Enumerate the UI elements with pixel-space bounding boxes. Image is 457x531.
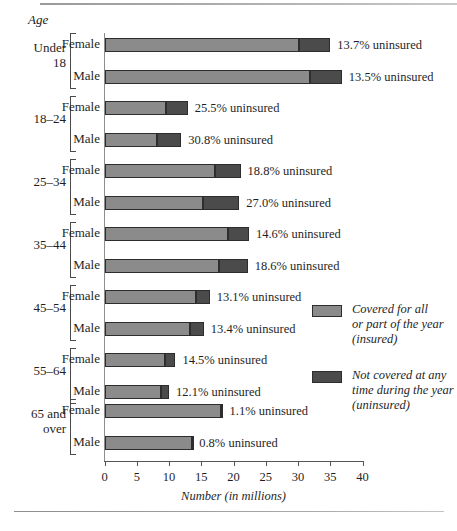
bar-segment-uninsured	[192, 436, 194, 450]
bar-row: 30.8% uninsured	[0, 133, 457, 147]
legend-swatch-insured	[312, 305, 342, 317]
bar-value-label: 0.8% uninsured	[199, 435, 277, 451]
legend-label-uninsured: Not covered at anytime during the year(u…	[352, 368, 457, 413]
legend-label-insured: Covered for allor part of the year(insur…	[352, 302, 457, 347]
bar-value-label: 25.5% uninsured	[195, 100, 280, 116]
top-rule	[40, 3, 457, 5]
insurance-coverage-chart: Age 0510152025303540 Number (in millions…	[0, 0, 457, 531]
bar-segment-uninsured	[161, 385, 169, 399]
bar-segment-insured	[105, 259, 219, 273]
bar-row: 14.6% uninsured	[0, 227, 457, 241]
bar-row: 0.8% uninsured	[0, 436, 457, 450]
x-axis-title: Number (in millions)	[104, 489, 363, 504]
bar-value-label: 13.1% uninsured	[217, 289, 302, 305]
bar-segment-uninsured	[299, 38, 330, 52]
bar-value-label: 30.8% uninsured	[188, 132, 273, 148]
bar-value-label: 14.5% uninsured	[182, 352, 267, 368]
bar-segment-insured	[105, 322, 191, 336]
bar-value-label: 13.5% uninsured	[349, 69, 434, 85]
bar-segment-insured	[105, 133, 158, 147]
bar-row: 14.5% uninsured	[0, 353, 457, 367]
x-tick-label-40: 40	[343, 470, 383, 485]
x-tick-0	[105, 461, 106, 466]
bar-segment-insured	[105, 101, 167, 115]
bar-value-label: 18.6% uninsured	[255, 258, 340, 274]
bar-value-label: 14.6% uninsured	[256, 226, 341, 242]
bottom-rule	[14, 511, 444, 512]
x-tick-35	[330, 461, 331, 466]
bar-segment-uninsured	[157, 133, 181, 147]
bar-segment-uninsured	[165, 353, 175, 367]
bar-row: 13.7% uninsured	[0, 38, 457, 52]
bar-value-label: 18.8% uninsured	[248, 163, 333, 179]
x-tick-10	[169, 461, 170, 466]
bar-value-label: 13.7% uninsured	[337, 37, 422, 53]
bar-segment-insured	[105, 385, 162, 399]
bar-segment-insured	[105, 38, 300, 52]
bar-segment-uninsured	[215, 164, 241, 178]
bar-segment-uninsured	[196, 290, 210, 304]
bar-segment-uninsured	[221, 404, 223, 418]
bar-row: 18.6% uninsured	[0, 259, 457, 273]
bar-row: 25.5% uninsured	[0, 101, 457, 115]
bar-row: 13.5% uninsured	[0, 70, 457, 84]
bar-value-label: 13.4% uninsured	[211, 321, 296, 337]
x-tick-20	[234, 461, 235, 466]
bar-segment-insured	[105, 290, 197, 304]
bar-segment-uninsured	[203, 196, 240, 210]
bar-value-label: 1.1% uninsured	[230, 403, 308, 419]
x-tick-40	[363, 461, 364, 466]
x-tick-30	[298, 461, 299, 466]
bar-segment-insured	[105, 196, 203, 210]
x-tick-5	[137, 461, 138, 466]
bar-segment-insured	[105, 353, 166, 367]
legend-swatch-uninsured	[312, 371, 342, 383]
x-tick-25	[266, 461, 267, 466]
bar-segment-insured	[105, 164, 215, 178]
bar-value-label: 12.1% uninsured	[176, 384, 261, 400]
age-axis-header: Age	[28, 12, 48, 28]
bar-segment-insured	[105, 404, 222, 418]
bar-segment-uninsured	[219, 259, 248, 273]
x-tick-15	[201, 461, 202, 466]
bar-segment-uninsured	[166, 101, 187, 115]
bar-segment-uninsured	[190, 322, 204, 336]
bar-segment-insured	[105, 70, 310, 84]
bar-segment-uninsured	[228, 227, 249, 241]
bar-segment-uninsured	[310, 70, 342, 84]
bar-row: 27.0% uninsured	[0, 196, 457, 210]
bar-segment-insured	[105, 227, 228, 241]
bar-segment-insured	[105, 436, 192, 450]
bar-row: 18.8% uninsured	[0, 164, 457, 178]
bar-value-label: 27.0% uninsured	[246, 195, 331, 211]
